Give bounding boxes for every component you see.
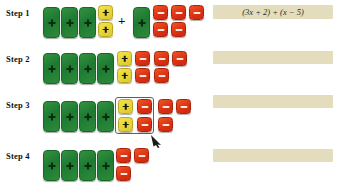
x-tile[interactable] [61, 7, 78, 38]
positive-unit-tile[interactable] [98, 22, 113, 37]
positive-unit-tile[interactable] [118, 99, 133, 114]
negative-unit-tile[interactable] [135, 51, 150, 66]
negative-unit-tile[interactable] [153, 22, 168, 37]
answer-strip-3[interactable] [213, 95, 333, 108]
step-label-2: Step 2 [6, 54, 30, 64]
x-tile[interactable] [43, 7, 60, 38]
negative-unit-tile[interactable] [154, 51, 169, 66]
negative-unit-tile[interactable] [172, 51, 187, 66]
x-tile[interactable] [43, 150, 60, 181]
negative-unit-tile[interactable] [189, 5, 204, 20]
x-tile[interactable] [79, 7, 96, 38]
negative-unit-tile[interactable] [171, 5, 186, 20]
negative-unit-tile[interactable] [158, 117, 173, 132]
answer-strip-2[interactable] [213, 51, 333, 64]
negative-unit-tile[interactable] [135, 68, 150, 83]
negative-unit-tile[interactable] [158, 99, 173, 114]
negative-unit-tile[interactable] [134, 148, 149, 163]
negative-unit-tile[interactable] [176, 99, 191, 114]
step-label-4: Step 4 [6, 151, 30, 161]
x-tile[interactable] [61, 101, 78, 132]
worksheet-canvas: Step 1 + (3x + 2) + (x − 5) Step 2 [0, 0, 337, 191]
x-tile[interactable] [79, 53, 96, 84]
answer-strip-1[interactable]: (3x + 2) + (x − 5) [213, 5, 333, 19]
answer-strip-4[interactable] [213, 149, 333, 162]
step-row-1: Step 1 + (3x + 2) + (x − 5) [0, 0, 337, 45]
negative-unit-tile[interactable] [116, 148, 131, 163]
x-tile[interactable] [43, 101, 60, 132]
operator-plus: + [118, 14, 125, 27]
step-label-3: Step 3 [6, 100, 30, 110]
positive-unit-tile[interactable] [117, 51, 132, 66]
expression-text: (3x + 2) + (x − 5) [213, 7, 333, 17]
x-tile[interactable] [79, 101, 96, 132]
x-tile[interactable] [133, 7, 150, 38]
positive-unit-tile[interactable] [98, 5, 113, 20]
x-tile[interactable] [79, 150, 96, 181]
x-tile[interactable] [97, 101, 114, 132]
positive-unit-tile[interactable] [118, 117, 133, 132]
x-tile[interactable] [97, 53, 114, 84]
negative-unit-tile[interactable] [137, 117, 152, 132]
x-tile[interactable] [97, 150, 114, 181]
step-row-2: Step 2 [0, 45, 337, 91]
negative-unit-tile[interactable] [171, 22, 186, 37]
step-label-1: Step 1 [6, 8, 30, 18]
positive-unit-tile[interactable] [117, 68, 132, 83]
x-tile[interactable] [61, 150, 78, 181]
step-row-4: Step 4 [0, 139, 337, 191]
negative-unit-tile[interactable] [153, 5, 168, 20]
x-tile[interactable] [43, 53, 60, 84]
negative-unit-tile[interactable] [154, 68, 169, 83]
x-tile[interactable] [61, 53, 78, 84]
negative-unit-tile[interactable] [137, 99, 152, 114]
step-row-3: Step 3 [0, 91, 337, 139]
negative-unit-tile[interactable] [116, 166, 131, 181]
